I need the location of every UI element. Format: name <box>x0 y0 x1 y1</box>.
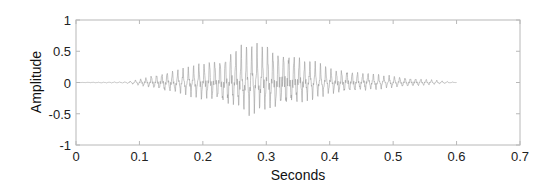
x-tick-label: 0.4 <box>321 149 339 164</box>
x-tick-label: 0.5 <box>384 149 402 164</box>
x-tick-label: 0.7 <box>511 149 529 164</box>
y-tick-label: 1 <box>64 13 71 28</box>
x-axis-label: Seconds <box>271 167 325 183</box>
y-axis-label: Amplitude <box>28 51 44 113</box>
y-tick-label: -0.5 <box>49 107 71 122</box>
y-tick-label: 0.5 <box>53 44 71 59</box>
y-tick-label: -1 <box>59 138 71 153</box>
y-tick-label: 0 <box>64 76 71 91</box>
waveform-chart: 00.10.20.30.40.50.60.7 10.50-0.5-1 Secon… <box>0 0 559 189</box>
x-tick-label: 0.1 <box>130 149 148 164</box>
x-tick-label: 0.3 <box>257 149 275 164</box>
x-tick-label: 0.2 <box>194 149 212 164</box>
x-tick-label: 0 <box>72 149 79 164</box>
chart-background <box>0 0 559 189</box>
x-tick-label: 0.6 <box>448 149 466 164</box>
